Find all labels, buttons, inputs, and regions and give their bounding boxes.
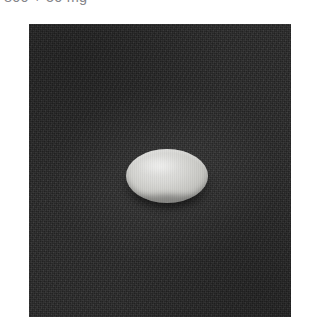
tablet-surface-texture: [126, 149, 208, 203]
page-root: 800 + 50 mg: [0, 0, 317, 329]
dosage-caption: 800 + 50 mg: [4, 0, 87, 6]
tablet-photograph: [29, 24, 291, 317]
tablet-body: [126, 149, 208, 203]
tablet-specular-highlight: [138, 156, 180, 175]
tablet-subject: [126, 149, 208, 203]
